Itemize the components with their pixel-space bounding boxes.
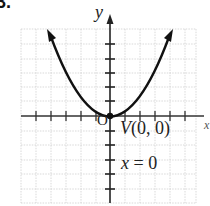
graph-figure: 3. y x O V(0, 0) x = 0 (0, 0, 210, 206)
x-axis-label: x (204, 118, 209, 133)
axis-of-symmetry-var: x (121, 153, 129, 173)
vertex-label: V(0, 0) (120, 118, 170, 139)
axis-of-symmetry-label: x = 0 (121, 153, 157, 174)
left-arrowhead-icon (47, 29, 56, 42)
vertex-prefix: V (120, 118, 131, 138)
problem-number: 3. (0, 0, 11, 13)
vertex-coords: (0, 0) (131, 118, 170, 138)
origin-label: O (97, 112, 108, 129)
axis-of-symmetry-value: = 0 (129, 153, 157, 173)
y-axis-label: y (95, 2, 103, 23)
coordinate-plane (0, 0, 210, 206)
right-arrowhead-icon (164, 29, 173, 42)
y-axis-arrow-icon (107, 14, 114, 24)
